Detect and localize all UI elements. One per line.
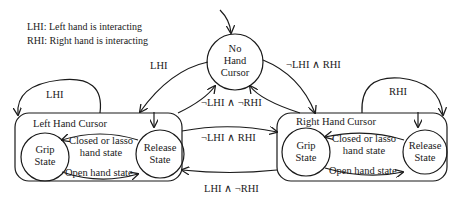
legend-rhi: RHI: Right hand is interacting bbox=[27, 34, 148, 48]
left-to-grip-label: Closed or lasso hand state bbox=[66, 135, 136, 159]
right-hand-cursor-title: Right Hand Cursor bbox=[296, 116, 376, 128]
right-grip-state: Grip State bbox=[286, 140, 326, 164]
left-grip-line1: Grip bbox=[25, 144, 65, 156]
right-to-grip-label: Closed or lasso hand state bbox=[328, 133, 400, 157]
left-hand-cursor-title: Left Hand Cursor bbox=[33, 118, 107, 130]
left-release-state: Release State bbox=[134, 142, 186, 166]
legend: LHI: Left hand is interacting RHI: Right… bbox=[27, 20, 148, 48]
label-right-to-left: LHI ∧ ¬RHI bbox=[204, 183, 259, 195]
right-release-line1: Release bbox=[399, 140, 451, 152]
left-release-line1: Release bbox=[134, 142, 186, 154]
no-hand-line2: Hand bbox=[212, 55, 258, 67]
initial-arrow bbox=[220, 10, 231, 33]
no-hand-line1: No bbox=[212, 43, 258, 55]
label-right-self: RHI bbox=[389, 86, 407, 98]
label-no-to-left: LHI bbox=[150, 60, 168, 72]
left-release-line2: State bbox=[134, 154, 186, 166]
right-grip-line2: State bbox=[286, 152, 326, 164]
right-release-line2: State bbox=[399, 152, 451, 164]
left-grip-line2: State bbox=[25, 156, 65, 168]
left-to-grip-line1: Closed or lasso bbox=[66, 135, 136, 147]
no-hand-line3: Cursor bbox=[212, 67, 258, 79]
no-hand-cursor-state: No Hand Cursor bbox=[212, 43, 258, 79]
right-release-state: Release State bbox=[399, 140, 451, 164]
left-grip-state: Grip State bbox=[25, 144, 65, 168]
legend-lhi: LHI: Left hand is interacting bbox=[27, 20, 148, 34]
label-left-self: LHI bbox=[46, 89, 64, 101]
left-to-release-label: Open hand state bbox=[65, 167, 133, 179]
right-to-grip-line1: Closed or lasso bbox=[328, 133, 400, 145]
label-left-to-no: ¬LHI ∧ ¬RHI bbox=[201, 97, 262, 109]
label-left-to-right: ¬LHI ∧ RHI bbox=[201, 132, 256, 144]
right-to-release-label: Open hand state bbox=[329, 165, 397, 177]
left-to-grip-line2: hand state bbox=[66, 147, 136, 159]
right-to-grip-line2: hand state bbox=[328, 145, 400, 157]
label-no-to-right: ¬LHI ∧ RHI bbox=[286, 59, 341, 71]
right-grip-line1: Grip bbox=[286, 140, 326, 152]
